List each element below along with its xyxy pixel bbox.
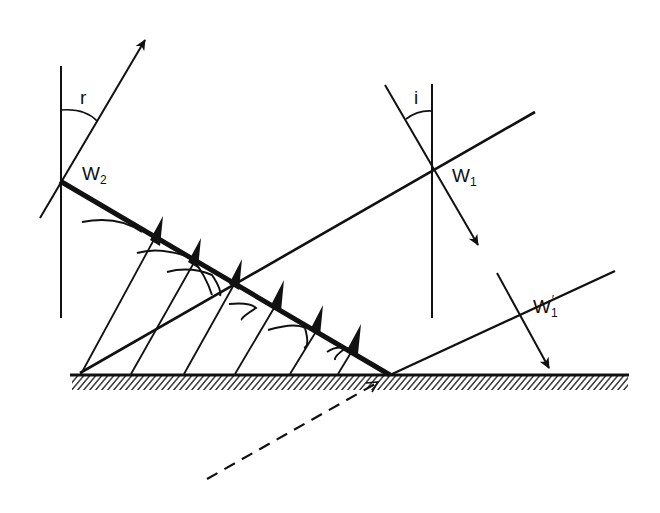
huygens-wavelets [82,220,346,360]
reflection-diagram [0,0,660,513]
dashed-extension [207,384,375,479]
reflected-ray-W2 [40,40,145,218]
reflected-wavefront [60,181,390,375]
incident-wavefront [80,112,535,373]
angle-i-arc [406,111,432,119]
label-r: r [80,88,86,107]
reflecting-surface [70,375,629,390]
label-i: i [414,88,418,107]
incident-ray-W1-prime [497,273,549,368]
label-W2: W2 [82,164,107,186]
label-W1: W1 [452,166,477,188]
angle-r-arc [61,110,97,121]
huygens-rays [81,234,355,374]
incident-wavefront-right [390,271,615,375]
label-W1-prime: W1′ [533,296,554,319]
